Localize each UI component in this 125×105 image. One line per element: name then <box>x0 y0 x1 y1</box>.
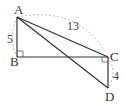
point-label-b: B <box>10 54 19 69</box>
segment-ac <box>17 17 108 57</box>
measure-cd: 4 <box>113 69 119 83</box>
arc-ab <box>13 17 18 57</box>
point-label-d: D <box>105 89 114 104</box>
right-angle-c-icon <box>102 57 108 62</box>
measure-ac: 13 <box>67 19 79 33</box>
geometry-diagram: A B C D 5 13 4 <box>0 0 125 105</box>
measure-ab: 5 <box>7 32 13 46</box>
diagram-canvas: A B C D 5 13 4 <box>0 0 125 105</box>
segment-ad <box>17 17 108 88</box>
point-label-a: A <box>14 2 24 17</box>
point-label-c: C <box>110 49 119 64</box>
